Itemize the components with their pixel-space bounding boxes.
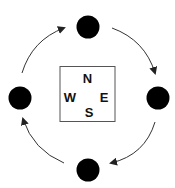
arrow-bottom-to-left (23, 119, 64, 163)
compass-south: S (85, 105, 94, 120)
arrow-left-to-top (22, 28, 64, 73)
node-right (147, 87, 170, 110)
arrow-right-to-bottom (111, 122, 155, 163)
node-left (9, 87, 32, 110)
compass-north: N (83, 71, 92, 86)
compass-west: W (64, 90, 77, 105)
node-top (77, 16, 100, 39)
arrow-top-to-right (112, 28, 155, 73)
compass-east: E (100, 90, 109, 105)
rotation-diagram: N W E S (0, 0, 175, 188)
node-bottom (77, 159, 100, 182)
